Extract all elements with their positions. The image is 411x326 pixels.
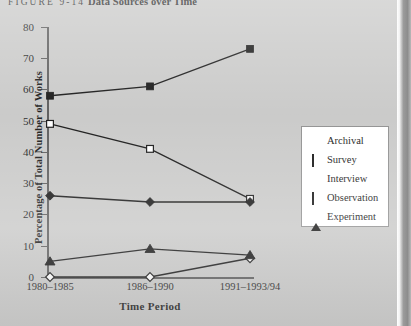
legend-label: Survey <box>327 154 357 165</box>
data-point-archival <box>247 45 254 52</box>
open-diamond-icon <box>311 193 321 203</box>
data-point-archival <box>147 83 154 90</box>
data-point-survey <box>47 120 54 127</box>
data-point-archival <box>47 92 54 99</box>
data-point-interview <box>146 198 155 207</box>
legend-label: Archival <box>327 135 364 146</box>
filled-square-icon <box>311 136 321 146</box>
figure-root: FIGURE 9-14 Data Sources over Time 80 70… <box>0 0 411 326</box>
data-point-experiment <box>145 244 155 252</box>
page-edge-shadow <box>397 0 411 326</box>
data-point-observation <box>146 273 155 282</box>
data-point-survey <box>147 145 154 152</box>
chart-legend: Archival Survey Interview Observation Ex… <box>301 126 389 227</box>
filled-triangle-icon <box>311 212 321 222</box>
open-square-icon <box>311 155 321 165</box>
legend-label: Experiment <box>327 211 376 222</box>
legend-label: Observation <box>327 192 378 203</box>
series-line-survey <box>50 124 250 199</box>
data-point-interview <box>46 191 55 200</box>
data-point-observation <box>46 273 55 282</box>
legend-label: Interview <box>327 173 367 184</box>
filled-diamond-icon <box>311 174 321 184</box>
